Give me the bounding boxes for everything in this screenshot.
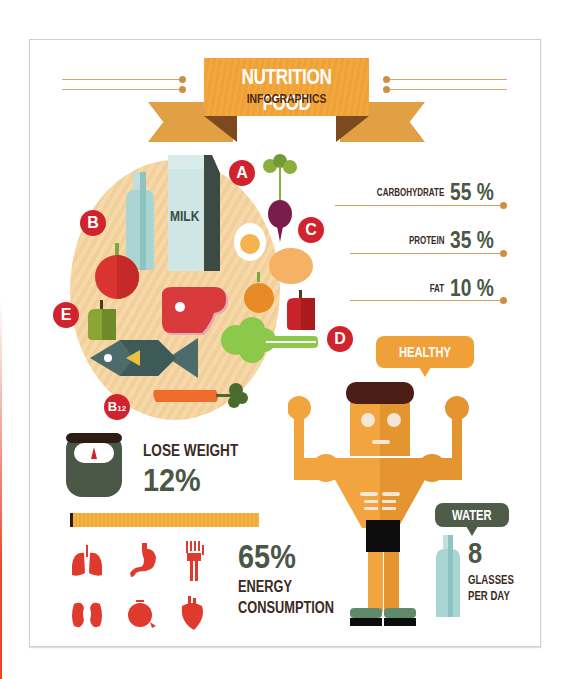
milk-label: MILK	[170, 207, 199, 224]
energy-label-line2: CONSUMPTION	[238, 599, 334, 617]
macro-label-fat: FAT	[429, 283, 444, 294]
macro-label-protein: PROTEIN	[408, 235, 444, 246]
vitamin-badge-a: A	[229, 160, 255, 186]
header-line-right-1	[390, 79, 507, 80]
badge-letter: B	[108, 399, 117, 414]
header-dot	[383, 86, 390, 93]
eye-icon	[126, 600, 158, 630]
weight-progress-bar	[73, 513, 259, 527]
header-line-left-1	[62, 79, 179, 80]
macro-value-carbohydrate: 55 %	[450, 178, 494, 206]
lose-weight-label: LOSE WEIGHT	[143, 441, 238, 461]
energy-label-line1: ENERGY	[238, 578, 292, 596]
vitamin-badge-d: D	[327, 326, 353, 352]
scale-icon	[66, 433, 122, 497]
healthy-body-bubble: HEALTHY BODY	[376, 336, 474, 368]
page-subtitle: INFOGRAPHICS	[221, 91, 353, 106]
egg-icon	[232, 222, 268, 262]
vitamin-badge-c: C	[298, 217, 324, 243]
fish-icon	[90, 338, 202, 378]
page-title: NUTRITION FOOD	[222, 64, 351, 116]
header-line-left-2	[62, 89, 179, 90]
macro-line	[335, 205, 503, 206]
stomach-icon	[128, 543, 158, 579]
macro-value-protein: 35 %	[450, 226, 494, 254]
header-line-right-2	[390, 89, 507, 90]
energy-value: 65%	[238, 537, 296, 576]
vitamin-badge-b12: B12	[104, 394, 130, 420]
carrot-icon	[150, 380, 250, 414]
header-dot	[179, 76, 186, 83]
macro-dot	[500, 297, 507, 304]
water-unit-line2: PER DAY	[468, 589, 510, 603]
green-pepper-icon	[85, 300, 119, 342]
macro-dot	[500, 250, 507, 257]
hand-bone-icon	[184, 541, 206, 581]
lose-weight-value: 12%	[143, 462, 201, 499]
header-dot	[383, 76, 390, 83]
vitamin-badge-b: B	[80, 210, 106, 236]
lungs-icon	[70, 545, 104, 577]
header-dot	[179, 86, 186, 93]
macro-line	[350, 253, 503, 254]
macro-line	[350, 300, 503, 301]
heart-icon	[178, 596, 206, 630]
badge-subscript: 12	[117, 404, 126, 413]
vitamin-badge-e: E	[53, 302, 79, 328]
kidneys-icon	[70, 600, 104, 630]
left-edge-strip	[0, 300, 2, 679]
water-value: 8	[468, 536, 482, 570]
orange-icon	[242, 272, 276, 316]
water-bubble: WATER	[435, 503, 509, 527]
water-bottle-icon	[434, 535, 462, 619]
title-ribbon: NUTRITION FOOD INFOGRAPHICS	[204, 58, 369, 116]
broccoli-icon	[220, 316, 320, 366]
water-unit-line1: GLASSES	[468, 573, 514, 587]
macro-dot	[500, 202, 507, 209]
water-label: WATER	[452, 503, 492, 527]
tomato-icon	[93, 243, 141, 301]
macro-label-carbohydrate: CARBOHYDRATE	[377, 187, 444, 198]
macro-value-fat: 10 %	[450, 274, 494, 302]
